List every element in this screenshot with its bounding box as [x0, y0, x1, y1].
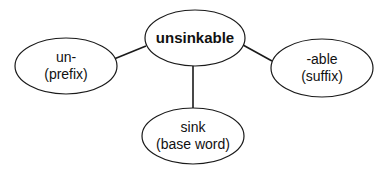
base-node-word: sink	[181, 119, 207, 135]
edge-center-to-suffix	[243, 45, 272, 61]
base-node: sink (base word)	[142, 108, 244, 164]
suffix-node-word: -able	[306, 51, 337, 67]
word-web-diagram: unsinkable un- (prefix) -able (suffix) s…	[0, 0, 387, 174]
prefix-node-type: (prefix)	[44, 66, 88, 82]
prefix-node-word: un-	[56, 49, 77, 65]
center-node-label: unsinkable	[156, 29, 234, 46]
base-node-type: (base word)	[156, 136, 230, 152]
center-node: unsinkable	[145, 10, 245, 66]
prefix-node: un- (prefix)	[15, 38, 117, 94]
suffix-node-type: (suffix)	[301, 68, 343, 84]
edge-center-to-prefix	[114, 46, 146, 59]
suffix-node: -able (suffix)	[271, 39, 373, 97]
